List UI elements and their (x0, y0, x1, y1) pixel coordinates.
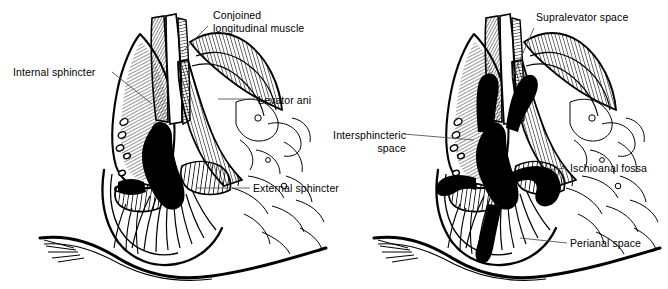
anatomy-figure: Conjoinedlongitudinal muscle Internal sp… (0, 0, 668, 289)
leader-perianal (520, 238, 567, 243)
label-external-sphincter: External sphincter (253, 182, 339, 195)
label-line-1: Intersphincteric (333, 129, 406, 141)
label-internal-sphincter: Internal sphincter (13, 66, 95, 79)
label-line-2: space (377, 142, 406, 154)
left-panel-art (40, 14, 326, 280)
label-line-1: Conjoined (213, 9, 261, 21)
label-levator-ani: Levator ani (258, 94, 311, 107)
label-intersphincteric-space: Intersphinctericspace (318, 129, 406, 155)
label-perianal-space: Perianal space (570, 237, 641, 250)
label-line-2: longitudinal muscle (213, 22, 304, 34)
label-supralevator-space: Supralevator space (536, 11, 628, 24)
label-ischioanal-fossa: Ischioanal fossa (570, 162, 647, 175)
label-conjoined-longitudinal-muscle: Conjoinedlongitudinal muscle (213, 9, 304, 35)
